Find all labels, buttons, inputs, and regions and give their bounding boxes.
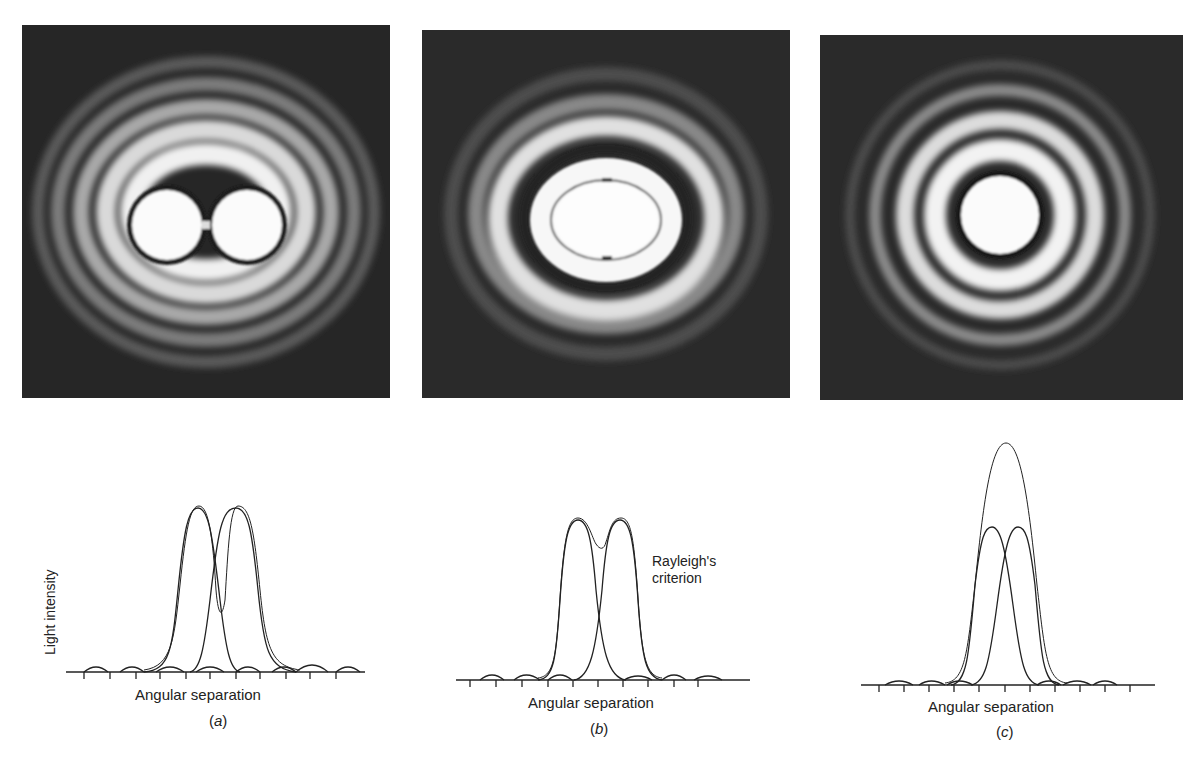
rayleigh-criterion-annotation: Rayleigh's criterion xyxy=(652,553,716,587)
y-axis-label: Light intensity xyxy=(42,569,58,655)
two-just-resolved-airy-patterns xyxy=(422,30,790,398)
intensity-plot-a xyxy=(60,490,370,690)
panel-label-c: (c) xyxy=(996,723,1014,740)
diffraction-photo-c xyxy=(820,35,1183,400)
diffraction-photo-b xyxy=(422,30,790,398)
two-resolved-airy-patterns xyxy=(22,25,390,398)
x-axis-label-c: Angular separation xyxy=(928,698,1054,715)
x-axis-label-a: Angular separation xyxy=(135,686,261,703)
x-axis-label-b: Angular separation xyxy=(528,694,654,711)
intensity-plot-c xyxy=(855,435,1175,700)
unresolved-airy-pattern xyxy=(820,35,1183,400)
diffraction-photo-a xyxy=(22,25,390,398)
x-ticks xyxy=(470,680,698,687)
panel-label-b: (b) xyxy=(590,720,608,737)
x-ticks xyxy=(879,685,1130,692)
intensity-plot-b xyxy=(450,500,770,700)
panel-label-a: (a) xyxy=(209,712,227,729)
x-ticks xyxy=(84,672,336,679)
